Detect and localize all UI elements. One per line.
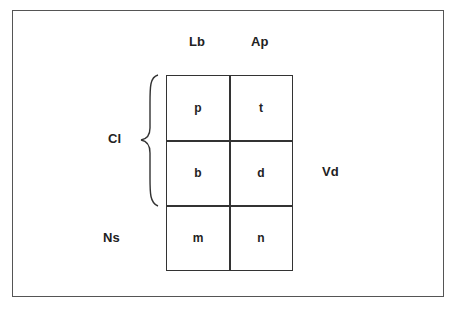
column-header-lb: Lb <box>189 34 205 49</box>
cell-m: m <box>167 206 229 270</box>
column-header-ap: Ap <box>251 34 268 49</box>
row-label-ns: Ns <box>103 230 120 245</box>
cell-p: p <box>167 76 229 140</box>
cell-n: n <box>230 206 292 270</box>
cell-t: t <box>230 76 292 140</box>
row-label-cl: Cl <box>108 131 121 146</box>
row-label-vd: Vd <box>322 164 339 179</box>
cell-d: d <box>230 141 292 205</box>
cell-b: b <box>167 141 229 205</box>
curly-brace-icon <box>138 73 162 208</box>
phoneme-grid: p t b d m n <box>166 75 293 271</box>
